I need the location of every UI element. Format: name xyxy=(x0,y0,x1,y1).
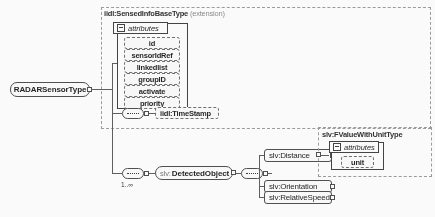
element-orientation-label: Orientation xyxy=(280,182,317,191)
attribute-label: activate xyxy=(139,87,165,96)
schema-diagram-canvas: iidl:SensedInfoBaseType (extension) RADA… xyxy=(0,0,435,217)
connector-root-to-spine xyxy=(92,89,112,90)
element-orientation-prefix: slv: xyxy=(269,182,280,191)
cardinality-label-detectedobject: 1..∞ xyxy=(121,181,133,188)
attribute-label: groupID xyxy=(138,75,165,84)
base-type-group-qualifier: (extension) xyxy=(190,9,225,18)
element-relativespeed-stub[interactable] xyxy=(330,195,335,200)
attributes-header-label: attributes xyxy=(128,24,159,33)
attribute-label: id xyxy=(149,39,155,48)
value-attribute-item[interactable]: unit xyxy=(341,156,374,168)
attributes-panel-header[interactable]: attributes xyxy=(113,22,168,34)
root-node-label: RADARSensorType xyxy=(14,85,87,94)
value-attributes-header-label: attributes xyxy=(344,143,375,152)
element-relativespeed-label: RelativeSpeed xyxy=(280,193,329,202)
connector-children-spine xyxy=(259,155,260,197)
value-attribute-label: unit xyxy=(351,158,364,167)
connector-children-compositor-out xyxy=(268,173,272,174)
value-attributes-panel-header[interactable]: attributes xyxy=(329,141,379,153)
element-detectedobject-prefix: slv: xyxy=(160,169,171,178)
element-timestamp-prefix: iidl: xyxy=(160,109,172,118)
value-type-group-name: slv:FValueWithUnitType xyxy=(322,130,402,139)
root-node-radarsensortype[interactable]: RADARSensorType xyxy=(10,82,90,97)
element-detectedobject-label: DetectedObject xyxy=(172,169,229,178)
attribute-label: linkedlist xyxy=(137,63,168,72)
attribute-item[interactable]: activate xyxy=(124,85,180,97)
collapse-icon[interactable] xyxy=(117,24,125,32)
attribute-label: sensorIdRef xyxy=(131,51,172,60)
element-distance-prefix: slv: xyxy=(269,151,280,160)
collapse-icon[interactable] xyxy=(333,143,341,151)
base-type-group-name: iidl:SensedInfoBaseType xyxy=(104,9,188,18)
connector-spine-to-timestamp xyxy=(112,113,122,114)
sequence-compositor-timestamp[interactable] xyxy=(122,108,144,119)
attribute-item[interactable]: id xyxy=(124,37,180,49)
attribute-item[interactable]: linkedlist xyxy=(124,61,180,73)
attribute-item[interactable]: groupID xyxy=(124,73,180,85)
value-type-group-title: slv:FValueWithUnitType xyxy=(322,130,402,139)
element-detectedobject[interactable]: slv: DetectedObject xyxy=(155,166,233,180)
connector-valuetype-entry xyxy=(321,155,329,156)
element-timestamp[interactable]: iidl: TimeStamp xyxy=(155,107,219,119)
element-orientation-stub[interactable] xyxy=(330,184,335,189)
element-relativespeed-prefix: slv: xyxy=(269,193,280,202)
connector-spine-to-detectedobject xyxy=(112,173,122,174)
attribute-item[interactable]: sensorIdRef xyxy=(124,49,180,61)
element-timestamp-label: TimeStamp xyxy=(172,109,211,118)
element-relativespeed[interactable]: slv: RelativeSpeed xyxy=(264,191,332,204)
element-distance-label: Distance xyxy=(280,151,310,160)
connector-main-spine xyxy=(112,63,113,173)
sequence-compositor-detectedobject[interactable] xyxy=(122,168,144,179)
base-type-group-title: iidl:SensedInfoBaseType (extension) xyxy=(104,9,225,18)
